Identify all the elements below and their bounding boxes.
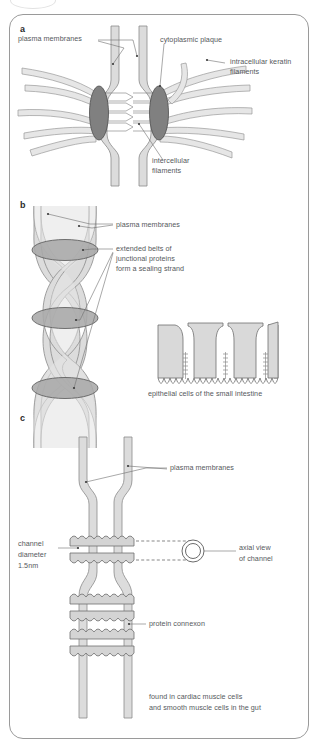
panel-letter-a: a — [20, 24, 25, 34]
caption-epithelial-cells: epithelial cells of the small intestine — [148, 390, 262, 399]
label-protein-connexon: protein connexon — [149, 620, 205, 629]
label-channel-line2: diameter — [18, 551, 46, 560]
label-channel-line1: channel — [18, 540, 44, 549]
label-plasma-membranes-c: plasma membranes — [170, 464, 234, 473]
label-plasma-membranes-a: plasma membranes — [18, 35, 82, 44]
label-cytoplasmic-plaque: cytoplasmic plaque — [160, 36, 222, 45]
label-axial-view-line2: of channel — [239, 555, 273, 564]
label-intercellular-line2: filaments — [152, 167, 181, 176]
figure-border — [9, 14, 309, 739]
figure-root: .mem { fill:#dcdcdc; stroke:#8a8a8a; str… — [0, 0, 318, 749]
label-keratin-filaments-line1: intracellular keratin — [230, 58, 291, 67]
label-intercellular-line1: intercellular — [152, 157, 189, 166]
label-plasma-membranes-b: plasma membranes — [116, 221, 180, 230]
panel-letter-b: b — [20, 200, 26, 210]
label-sealing-strand-line1: extended belts of — [116, 245, 172, 254]
label-sealing-strand-line2: junctional proteins — [116, 255, 175, 264]
label-axial-view-line1: axial view — [239, 544, 271, 553]
label-sealing-strand-line3: form a sealing strand — [116, 265, 184, 274]
top-crop-artifact — [10, 0, 56, 9]
caption-found-in-line2: and smooth muscle cells in the gut — [149, 704, 261, 713]
caption-found-in-line1: found in cardiac muscle cells — [149, 693, 242, 702]
label-channel-line3: 1.5nm — [18, 562, 38, 571]
panel-letter-c: c — [20, 413, 25, 423]
label-keratin-filaments-line2: filaments — [230, 68, 259, 77]
